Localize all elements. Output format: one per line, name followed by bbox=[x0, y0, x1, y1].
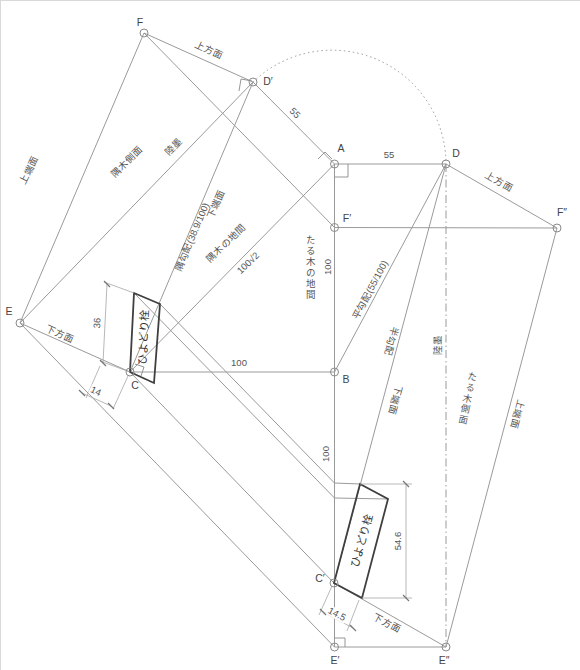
point-label-Dp: D′ bbox=[263, 76, 273, 87]
dim-55-top: 55 bbox=[383, 150, 396, 160]
point-label-E: E bbox=[5, 306, 12, 317]
ext-14-b bbox=[113, 376, 128, 409]
ext-36-b bbox=[100, 361, 130, 372]
line-C-A bbox=[130, 164, 335, 372]
line-E-C bbox=[20, 323, 130, 372]
point-label-C: C bbox=[131, 380, 139, 391]
ext-36-a bbox=[104, 282, 134, 293]
point-label-B: B bbox=[342, 374, 349, 385]
point-label-A: A bbox=[337, 143, 344, 154]
dim-36: 36 bbox=[92, 316, 102, 329]
right-angle-mark-Ep bbox=[335, 638, 345, 647]
dim-100-span: 100 bbox=[323, 258, 333, 276]
tick bbox=[108, 403, 114, 409]
point-label-Cp: C′ bbox=[315, 573, 325, 584]
point-label-Fp: F′ bbox=[343, 213, 351, 224]
line-pin-transfer-2 bbox=[134, 293, 388, 499]
dimline-36 bbox=[103, 284, 107, 363]
construction-lines bbox=[1, 1, 580, 670]
dim-100-lower: 100 bbox=[321, 445, 331, 463]
point-label-Epp: E″ bbox=[439, 655, 450, 666]
right-angle-mark-A bbox=[335, 164, 348, 177]
point-label-D: D bbox=[452, 148, 460, 159]
point-label-Fpp: F″ bbox=[557, 207, 567, 218]
right-angle-mark-A-diag bbox=[318, 152, 332, 159]
line-C-Cp bbox=[130, 372, 334, 583]
point-label-Ep: E′ bbox=[331, 655, 340, 666]
tick bbox=[350, 625, 356, 631]
line-Fpp-Epp bbox=[446, 228, 557, 647]
label-taruki-no-jima: たる木の地間 bbox=[305, 235, 315, 301]
ext-145-b bbox=[347, 600, 359, 631]
line-E-F bbox=[20, 33, 144, 323]
label-rokuzumi-right: 陸墨 bbox=[433, 335, 443, 355]
arc-Dp-to-D bbox=[253, 50, 446, 164]
line-Dp-A bbox=[253, 82, 335, 164]
drawing-canvas: F D′ A D F′ F″ E C B C′ E′ E″ 55 55 100 … bbox=[0, 0, 580, 670]
tick bbox=[79, 390, 85, 396]
line-D-Fpp bbox=[446, 164, 557, 228]
dim-100-plan: 100 bbox=[230, 358, 248, 368]
line-F-Fp bbox=[144, 33, 335, 228]
dim-54-6: 54.6 bbox=[393, 531, 403, 552]
point-label-F: F bbox=[137, 17, 143, 28]
